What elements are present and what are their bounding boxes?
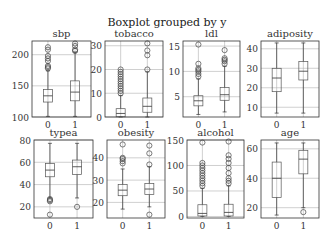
y-tick-label: 80 — [20, 136, 32, 146]
x-tick-label: 1 — [300, 120, 306, 130]
y-tick-label: 15 — [169, 42, 181, 52]
y-tick-label: 150 — [12, 81, 29, 91]
x-tick-label: 0 — [274, 221, 280, 231]
subplot-title: adiposity — [267, 28, 313, 39]
y-tick-label: 40 — [247, 44, 259, 54]
x-tick-label: 1 — [74, 221, 80, 231]
y-tick-label: 30 — [93, 176, 105, 186]
subplot-obesity: obesity20304001 — [93, 127, 165, 231]
subplot-title: sbp — [53, 28, 71, 39]
y-tick-label: 20 — [93, 198, 105, 208]
subplot-title: alcohol — [197, 127, 233, 138]
y-tick-label: 20 — [247, 203, 259, 213]
y-tick-label: 20 — [20, 202, 32, 212]
x-tick-label: 1 — [300, 221, 306, 231]
y-tick-label: 40 — [247, 174, 259, 184]
subplot-ldl: ldl5101501 — [169, 28, 240, 130]
y-tick-label: 200 — [12, 50, 29, 60]
subplot-title: tobacco — [114, 28, 154, 39]
x-tick-label: 1 — [146, 221, 152, 231]
subplot-adiposity: adiposity1020304001 — [247, 28, 319, 130]
axes-frame — [187, 140, 244, 218]
boxplot-figure: Boxplot grouped by y sbp10015020001tobac… — [0, 0, 334, 241]
subplot-age: age20406001 — [247, 127, 319, 231]
box-0 — [272, 43, 281, 113]
y-tick-label: 30 — [91, 41, 103, 51]
y-tick-label: 0 — [178, 212, 184, 222]
y-tick-label: 10 — [247, 103, 259, 113]
y-tick-label: 100 — [12, 113, 29, 123]
axes-frame — [261, 41, 319, 117]
y-tick-label: 40 — [20, 180, 32, 190]
subplot-title: age — [281, 127, 299, 138]
subplot-typea: typea2040608001 — [20, 127, 93, 231]
subplot-tobacco: tobacco010203001 — [91, 28, 163, 130]
y-tick-label: 100 — [167, 161, 184, 171]
y-tick-label: 0 — [96, 113, 102, 123]
y-tick-label: 30 — [247, 64, 259, 74]
y-tick-label: 5 — [174, 92, 180, 102]
box-1 — [220, 48, 229, 112]
subplot-title: obesity — [118, 127, 155, 138]
x-tick-label: 0 — [47, 221, 53, 231]
x-tick-label: 0 — [200, 221, 206, 231]
y-tick-label: 10 — [91, 89, 103, 99]
axes-frame — [107, 140, 165, 218]
y-tick-label: 60 — [247, 144, 259, 154]
y-tick-label: 40 — [93, 153, 105, 163]
axes-frame — [105, 41, 163, 117]
x-tick-label: 0 — [274, 120, 280, 130]
x-tick-label: 1 — [226, 221, 232, 231]
subplots-grid: sbp10015020001tobacco010203001ldl5101501… — [0, 0, 334, 241]
y-tick-label: 150 — [167, 136, 184, 146]
y-tick-label: 10 — [169, 67, 181, 77]
y-tick-label: 50 — [173, 186, 185, 196]
y-tick-label: 20 — [247, 83, 259, 93]
axes-frame — [183, 41, 240, 117]
box-1 — [71, 41, 80, 116]
subplot-sbp: sbp10015020001 — [12, 28, 91, 130]
subplot-alcohol: alcohol05010015001 — [167, 127, 244, 231]
subplot-title: typea — [50, 127, 78, 138]
y-tick-label: 60 — [20, 158, 32, 168]
axes-frame — [34, 140, 93, 218]
axes-frame — [261, 140, 319, 218]
y-tick-label: 20 — [91, 65, 103, 75]
x-tick-label: 0 — [120, 221, 126, 231]
axes-frame — [32, 41, 91, 117]
subplot-title: ldl — [205, 28, 218, 39]
